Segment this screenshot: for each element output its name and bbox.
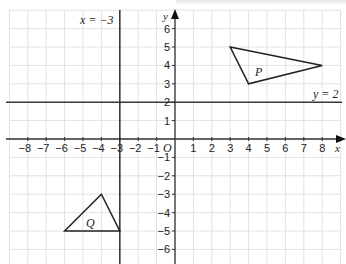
x-tick-label: 4: [246, 142, 252, 154]
line-label-y-eq-2: y = 2: [312, 87, 338, 101]
line-label-x-eq-neg3: x = −3: [79, 13, 114, 27]
y-tick-label: −5: [157, 225, 170, 237]
reference-lines: [6, 10, 342, 264]
y-tick-label: 2: [164, 96, 170, 108]
y-tick-label: −4: [157, 207, 170, 219]
y-tick-label: 5: [164, 41, 170, 53]
origin-label: O: [163, 141, 172, 155]
x-tick-label: 2: [209, 142, 215, 154]
x-axis-label: x: [334, 142, 340, 154]
shape-label-p: P: [254, 65, 263, 79]
x-tick-label: −6: [55, 142, 68, 154]
x-tick-label: −4: [92, 142, 105, 154]
x-tick-label: 1: [190, 142, 196, 154]
y-tick-label: 3: [164, 78, 170, 90]
labels: x = −3 y = 2 P Q O x y: [79, 10, 340, 230]
x-tick-label: 5: [264, 142, 270, 154]
x-tick-label: −3: [111, 142, 124, 154]
y-tick-label: −6: [157, 243, 170, 255]
x-tick-label: −8: [19, 142, 32, 154]
x-tick-label: −7: [37, 142, 50, 154]
y-tick-label: 6: [164, 23, 170, 35]
x-tick-label: 3: [227, 142, 233, 154]
x-tick-label: −2: [129, 142, 142, 154]
x-tick-label: 7: [301, 142, 307, 154]
y-tick-label: 1: [164, 115, 170, 127]
y-tick-label: −2: [157, 170, 170, 182]
y-axis-label: y: [162, 10, 168, 22]
shape-label-q: Q: [86, 216, 95, 230]
x-tick-label: 8: [319, 142, 325, 154]
x-tick-label: 6: [282, 142, 288, 154]
y-tick-label: −3: [157, 188, 170, 200]
coordinate-plane: −8−7−6−5−4−3−2−112345678654321−1−2−3−4−5…: [0, 0, 346, 264]
x-tick-label: −5: [74, 142, 87, 154]
coordinate-diagram: −8−7−6−5−4−3−2−112345678654321−1−2−3−4−5…: [0, 0, 346, 264]
y-tick-label: 4: [164, 59, 170, 71]
